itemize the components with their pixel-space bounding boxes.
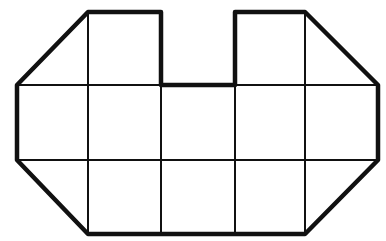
bold-outline: [17, 12, 378, 234]
grid-figure: [0, 0, 386, 241]
inner-grid-lines: [17, 12, 378, 234]
